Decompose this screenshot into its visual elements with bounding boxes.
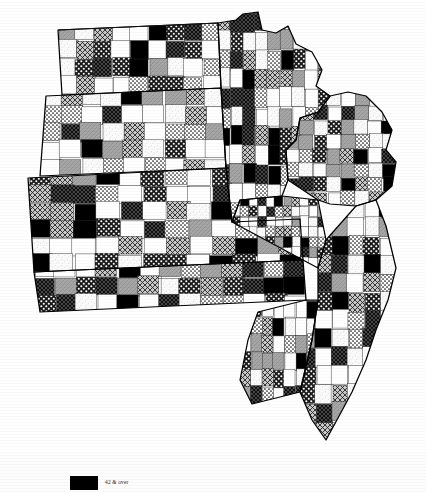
county-cell[interactable] <box>316 292 332 311</box>
county-cell[interactable] <box>96 277 117 295</box>
county-cell[interactable] <box>294 49 307 68</box>
county-cell[interactable] <box>243 33 256 52</box>
county-cell[interactable] <box>283 260 304 278</box>
county-cell[interactable] <box>266 197 275 207</box>
county-cell[interactable] <box>370 134 384 149</box>
county-cell[interactable] <box>292 87 305 106</box>
county-cell[interactable] <box>255 88 268 107</box>
county-cell[interactable] <box>342 92 356 107</box>
county-cell[interactable] <box>93 41 111 59</box>
county-cell[interactable] <box>121 221 144 239</box>
county-cell[interactable] <box>309 237 318 247</box>
county-cell[interactable] <box>75 60 93 78</box>
county-cell[interactable] <box>305 89 318 108</box>
county-cell[interactable] <box>50 220 73 238</box>
county-cell[interactable] <box>111 41 129 59</box>
county-cell[interactable] <box>240 217 249 227</box>
county-cell[interactable] <box>142 105 163 123</box>
county-cell[interactable] <box>333 309 349 328</box>
county-cell[interactable] <box>262 335 273 353</box>
county-cell[interactable] <box>354 119 368 134</box>
county-cell[interactable] <box>240 206 249 216</box>
county-cell[interactable] <box>275 207 284 217</box>
county-cell[interactable] <box>119 236 142 254</box>
county-cell[interactable] <box>262 318 273 336</box>
county-cell[interactable] <box>184 42 202 60</box>
county-cell[interactable] <box>267 217 276 227</box>
county-cell[interactable] <box>317 365 333 384</box>
county-cell[interactable] <box>348 255 364 274</box>
county-cell[interactable] <box>103 106 124 124</box>
county-cell[interactable] <box>76 277 97 295</box>
county-cell[interactable] <box>332 329 348 348</box>
county-cell[interactable] <box>254 69 267 88</box>
county-cell[interactable] <box>258 216 267 226</box>
county-cell[interactable] <box>145 221 168 239</box>
county-cell[interactable] <box>72 186 95 204</box>
county-cell[interactable] <box>274 196 283 206</box>
county-cell[interactable] <box>268 30 281 49</box>
county-cell[interactable] <box>296 318 307 336</box>
county-cell[interactable] <box>59 139 80 157</box>
county-cell[interactable] <box>50 203 73 221</box>
county-cell[interactable] <box>369 148 383 163</box>
county-cell[interactable] <box>279 109 292 128</box>
county-cell[interactable] <box>273 336 284 354</box>
county-cell[interactable] <box>299 136 313 151</box>
county-cell[interactable] <box>150 58 168 76</box>
county-cell[interactable] <box>264 278 285 296</box>
county-cell[interactable] <box>309 247 318 257</box>
county-cell[interactable] <box>243 51 256 70</box>
county-cell[interactable] <box>190 220 213 238</box>
county-cell[interactable] <box>331 365 347 384</box>
county-cell[interactable] <box>365 293 381 312</box>
county-cell[interactable] <box>179 278 200 296</box>
county-cell[interactable] <box>309 206 318 216</box>
county-cell[interactable] <box>312 148 326 163</box>
county-cell[interactable] <box>292 237 301 247</box>
county-cell[interactable] <box>97 219 120 237</box>
county-cell[interactable] <box>187 203 210 221</box>
county-cell[interactable] <box>255 32 268 51</box>
county-cell[interactable] <box>347 348 363 367</box>
county-cell[interactable] <box>251 386 262 404</box>
county-cell[interactable] <box>297 300 308 318</box>
county-cell[interactable] <box>327 150 341 165</box>
county-cell[interactable] <box>165 124 186 142</box>
county-cell[interactable] <box>144 123 165 141</box>
county-cell[interactable] <box>328 121 342 136</box>
county-cell[interactable] <box>349 293 365 312</box>
county-cell[interactable] <box>354 149 368 164</box>
county-cell[interactable] <box>93 58 111 76</box>
county-cell[interactable] <box>348 312 364 331</box>
county-cell[interactable] <box>144 238 167 256</box>
county-cell[interactable] <box>341 120 355 135</box>
county-cell[interactable] <box>103 123 124 141</box>
county-cell[interactable] <box>267 207 276 217</box>
county-cell[interactable] <box>275 226 284 236</box>
county-cell[interactable] <box>231 88 244 107</box>
county-cell[interactable] <box>355 106 369 121</box>
county-cell[interactable] <box>340 191 354 206</box>
county-cell[interactable] <box>165 140 186 158</box>
county-cell[interactable] <box>327 177 341 192</box>
county-cell[interactable] <box>75 204 98 222</box>
county-cell[interactable] <box>354 164 368 179</box>
county-cell[interactable] <box>369 163 383 178</box>
county-cell[interactable] <box>242 145 255 164</box>
county-cell[interactable] <box>121 106 142 124</box>
county-cell[interactable] <box>367 178 381 193</box>
county-cell[interactable] <box>328 107 342 122</box>
county-cell[interactable] <box>229 163 242 182</box>
county-cell[interactable] <box>205 140 226 158</box>
county-cell[interactable] <box>249 206 258 216</box>
county-cell[interactable] <box>355 134 369 149</box>
county-cell[interactable] <box>30 204 53 222</box>
county-cell[interactable] <box>347 217 363 236</box>
county-cell[interactable] <box>118 186 141 204</box>
county-cell[interactable] <box>314 177 328 192</box>
county-cell[interactable] <box>327 134 341 149</box>
county-cell[interactable] <box>273 370 284 388</box>
county-cell[interactable] <box>256 146 269 165</box>
county-cell[interactable] <box>284 226 293 236</box>
